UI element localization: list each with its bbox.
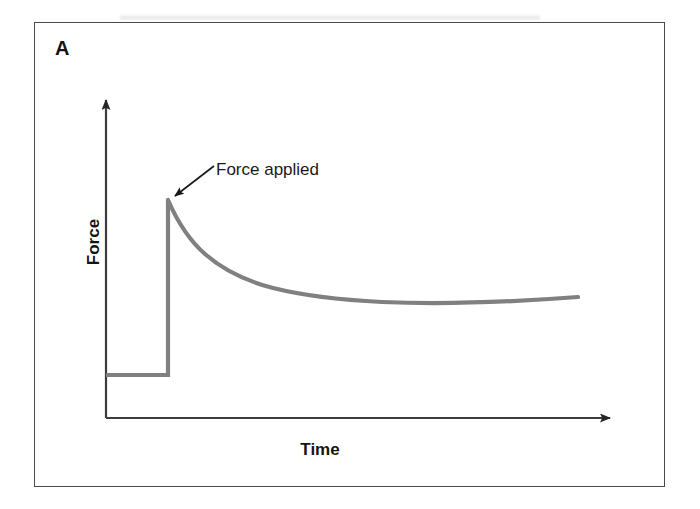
plot-canvas — [0, 0, 700, 509]
force-decay-curve — [168, 200, 578, 303]
x-axis-label: Time — [230, 440, 410, 460]
force-baseline-and-step — [106, 200, 168, 375]
annotation-arrow — [175, 166, 214, 196]
figure-page: A Force applied Force Time — [0, 0, 700, 509]
y-axis-label: Force — [84, 192, 104, 292]
curve-path-raw — [106, 200, 578, 375]
force-applied-annotation-label: Force applied — [216, 160, 319, 180]
